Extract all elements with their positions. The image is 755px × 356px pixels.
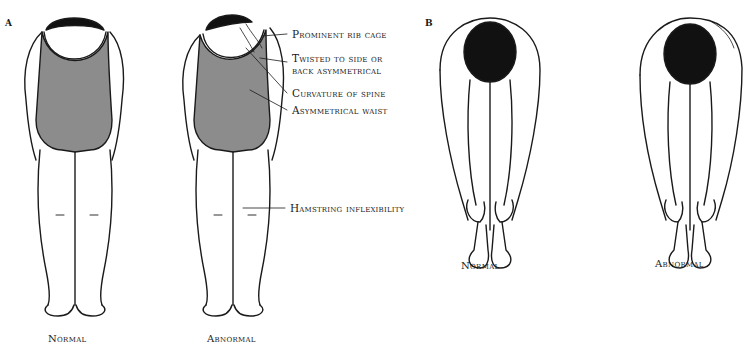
figure-a-normal — [25, 18, 124, 316]
panel-label-a: A — [5, 18, 12, 28]
callout-twisted-line-1: Twisted to side or — [292, 52, 382, 64]
figure-b-abnormal — [640, 18, 742, 268]
panel-label-b: B — [425, 18, 433, 28]
caption-a-abnormal: Abnormal — [207, 333, 256, 344]
figure-b-normal — [440, 18, 540, 268]
caption-b-abnormal: Abnormal — [655, 258, 704, 269]
caption-a-normal: Normal — [48, 333, 86, 344]
figure-a-abnormal — [183, 15, 284, 316]
callout-prominent-rib-cage: Prominent rib cage — [292, 28, 387, 40]
callout-asymmetrical-waist: Asymmetrical waist — [292, 104, 387, 116]
caption-b-normal: Normal — [461, 260, 499, 271]
callout-curvature-of-spine: Curvature of spine — [292, 87, 386, 99]
callout-twisted-line-2: back asymmetrical — [292, 64, 381, 76]
callout-hamstring-inflexibility: Hamstring inflexibility — [290, 202, 404, 214]
